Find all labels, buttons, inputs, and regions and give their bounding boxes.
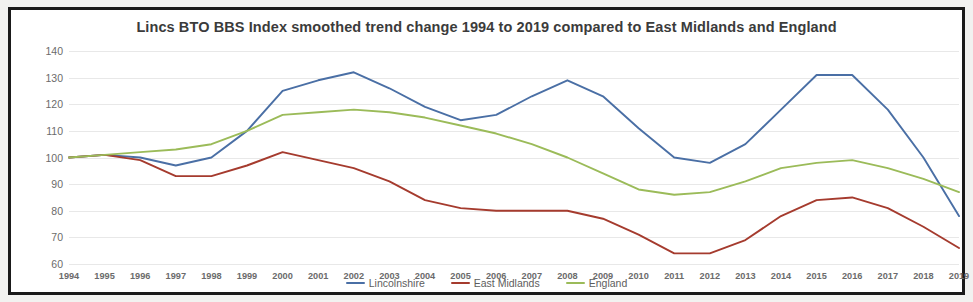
legend-swatch-icon xyxy=(566,282,585,284)
y-tick-label: 130 xyxy=(45,72,63,84)
y-tick-label: 120 xyxy=(45,98,63,110)
scanned-page: Lincs BTO BBS Index smoothed trend chang… xyxy=(0,0,973,302)
series-line-lincolnshire xyxy=(69,72,959,216)
legend-label: Lincolnshire xyxy=(369,277,425,289)
y-tick-label: 80 xyxy=(51,205,63,217)
chart-title: Lincs BTO BBS Index smoothed trend chang… xyxy=(11,19,962,35)
legend-swatch-icon xyxy=(346,282,365,284)
y-tick-label: 90 xyxy=(51,178,63,190)
y-tick-label: 70 xyxy=(51,231,63,243)
series-layer xyxy=(69,51,959,264)
legend-swatch-icon xyxy=(451,282,470,284)
series-line-east-midlands xyxy=(69,152,959,253)
y-tick-label: 140 xyxy=(45,45,63,57)
chart-legend: LincolnshireEast MidlandsEngland xyxy=(11,277,962,289)
y-tick-label: 110 xyxy=(46,125,63,137)
y-tick-label: 60 xyxy=(51,258,63,270)
figure-frame: Lincs BTO BBS Index smoothed trend chang… xyxy=(8,7,965,295)
legend-label: East Midlands xyxy=(474,277,540,289)
y-tick-label: 100 xyxy=(45,152,63,164)
legend-item-england[interactable]: England xyxy=(566,277,628,289)
chart-area: Lincs BTO BBS Index smoothed trend chang… xyxy=(11,10,962,292)
gridline xyxy=(69,264,959,265)
legend-item-east-midlands[interactable]: East Midlands xyxy=(451,277,540,289)
series-line-england xyxy=(69,110,959,195)
legend-label: England xyxy=(589,277,628,289)
plot-area: 60708090100110120130140 1994199519961997… xyxy=(69,51,959,264)
legend-item-lincolnshire[interactable]: Lincolnshire xyxy=(346,277,425,289)
